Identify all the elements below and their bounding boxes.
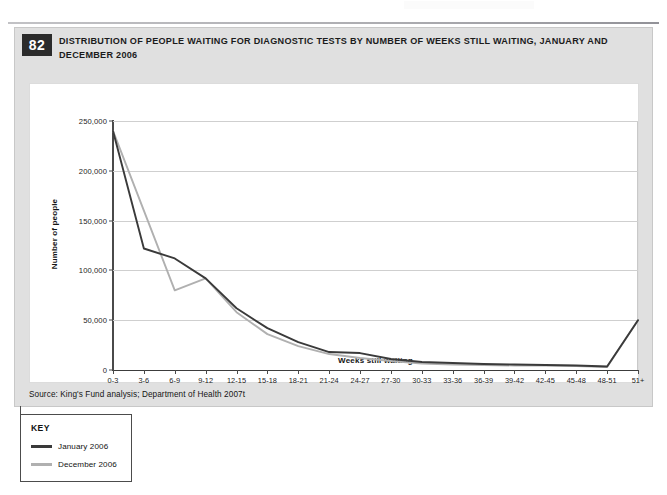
x-tick-mark — [360, 370, 361, 374]
series-layer — [113, 121, 638, 370]
chart-canvas: Number of people Weeks still waiting 050… — [29, 83, 639, 383]
y-tick-label: 0 — [103, 366, 107, 375]
page: 82 DISTRIBUTION OF PEOPLE WAITING FOR DI… — [0, 0, 667, 495]
x-tick-label: 15-18 — [258, 376, 277, 385]
page-top-ghost-content — [404, 1, 534, 9]
key-swatch-december — [31, 463, 52, 466]
x-tick-mark — [545, 370, 546, 374]
key-entry-january: January 2006 — [31, 442, 108, 451]
x-tick-label: 36-39 — [474, 376, 493, 385]
y-tick-label: 150,000 — [79, 216, 107, 225]
key-swatch-january — [31, 445, 52, 448]
x-tick-mark — [298, 370, 299, 374]
x-tick-mark — [422, 370, 423, 374]
key-label-december: December 2006 — [58, 460, 117, 469]
x-tick-mark — [206, 370, 207, 374]
figure-panel: 82 DISTRIBUTION OF PEOPLE WAITING FOR DI… — [14, 27, 653, 407]
x-tick-mark — [175, 370, 176, 374]
key-legend-box: KEY January 2006 December 2006 — [20, 414, 132, 482]
x-tick-label: 9-12 — [198, 376, 213, 385]
key-heading: KEY — [31, 423, 50, 433]
series-line-january-2006 — [113, 131, 638, 367]
x-tick-mark — [113, 370, 114, 374]
x-tick-mark — [237, 370, 238, 374]
y-tick-label: 100,000 — [79, 266, 107, 275]
x-tick-label: 33-36 — [443, 376, 462, 385]
x-tick-label: 27-30 — [381, 376, 400, 385]
x-tick-label: 0-3 — [108, 376, 119, 385]
key-label-january: January 2006 — [58, 442, 108, 451]
x-tick-label: 6-9 — [169, 376, 180, 385]
series-line-december-2006 — [113, 131, 638, 367]
y-tick-label: 250,000 — [79, 117, 107, 126]
x-tick-mark — [514, 370, 515, 374]
x-tick-label: 30-33 — [412, 376, 431, 385]
x-tick-mark — [576, 370, 577, 374]
key-entry-december: December 2006 — [31, 460, 117, 469]
x-tick-label: 18-21 — [289, 376, 308, 385]
y-tick-label: 50,000 — [83, 316, 107, 325]
x-tick-mark — [453, 370, 454, 374]
x-tick-mark — [607, 370, 608, 374]
x-tick-label: 45-48 — [567, 376, 586, 385]
x-tick-mark — [144, 370, 145, 374]
plot-area: 050,000100,000150,000200,000250,000 0-33… — [113, 121, 638, 370]
figure-title: DISTRIBUTION OF PEOPLE WAITING FOR DIAGN… — [59, 35, 631, 63]
x-tick-mark — [484, 370, 485, 374]
x-tick-mark — [391, 370, 392, 374]
x-tick-mark — [267, 370, 268, 374]
x-tick-label: 42-45 — [536, 376, 555, 385]
source-note: Source: King's Fund analysis; Department… — [29, 390, 639, 399]
x-tick-label: 12-15 — [227, 376, 246, 385]
figure-number-badge: 82 — [22, 34, 52, 56]
x-tick-mark — [329, 370, 330, 374]
x-tick-label: 48-51 — [598, 376, 617, 385]
y-tick-label: 200,000 — [79, 166, 107, 175]
x-tick-label: 51+ — [632, 376, 645, 385]
x-tick-label: 21-24 — [320, 376, 339, 385]
x-axis-line — [112, 370, 639, 372]
x-tick-label: 39-42 — [505, 376, 524, 385]
x-tick-label: 3-6 — [138, 376, 149, 385]
x-tick-label: 24-27 — [350, 376, 369, 385]
page-top-divider — [8, 22, 659, 24]
y-axis-title: Number of people — [50, 199, 59, 269]
x-tick-mark — [638, 370, 639, 374]
